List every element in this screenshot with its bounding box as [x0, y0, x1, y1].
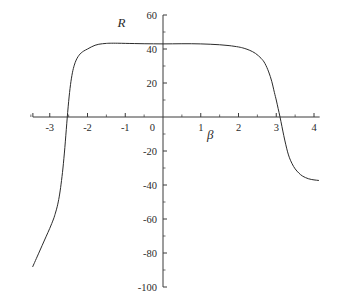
x-tick-label: 4	[311, 122, 317, 133]
line-chart: -3-2-101234 604020-20-40-60-80-100 R β	[0, 0, 338, 308]
x-tick-label: -1	[121, 122, 130, 133]
x-tick-label: -3	[45, 122, 54, 133]
y-tick-label: -100	[138, 282, 157, 293]
y-axis-label: R	[116, 15, 125, 30]
figure-container: -3-2-101234 604020-20-40-60-80-100 R β	[0, 0, 338, 308]
x-axis-label: β	[206, 127, 214, 142]
y-tick-label: -40	[143, 180, 157, 191]
y-tick-label: -20	[143, 146, 157, 157]
y-tick-label: 40	[147, 44, 158, 55]
x-tick-label: 0	[150, 122, 155, 133]
data-curve	[33, 43, 319, 266]
y-tick-label: 60	[147, 10, 158, 21]
x-tick-label: 2	[236, 122, 241, 133]
y-tick-label: 20	[147, 78, 158, 89]
y-tick-label: -60	[143, 214, 157, 225]
y-tick-label: -80	[143, 248, 157, 259]
x-tick-label: -2	[83, 122, 92, 133]
major-tick-marks	[33, 15, 314, 287]
x-axis-tick-labels: -3-2-101234	[45, 122, 317, 133]
x-tick-label: 3	[274, 122, 279, 133]
y-axis-tick-labels: 604020-20-40-60-80-100	[138, 10, 157, 293]
x-tick-label: 1	[198, 122, 203, 133]
